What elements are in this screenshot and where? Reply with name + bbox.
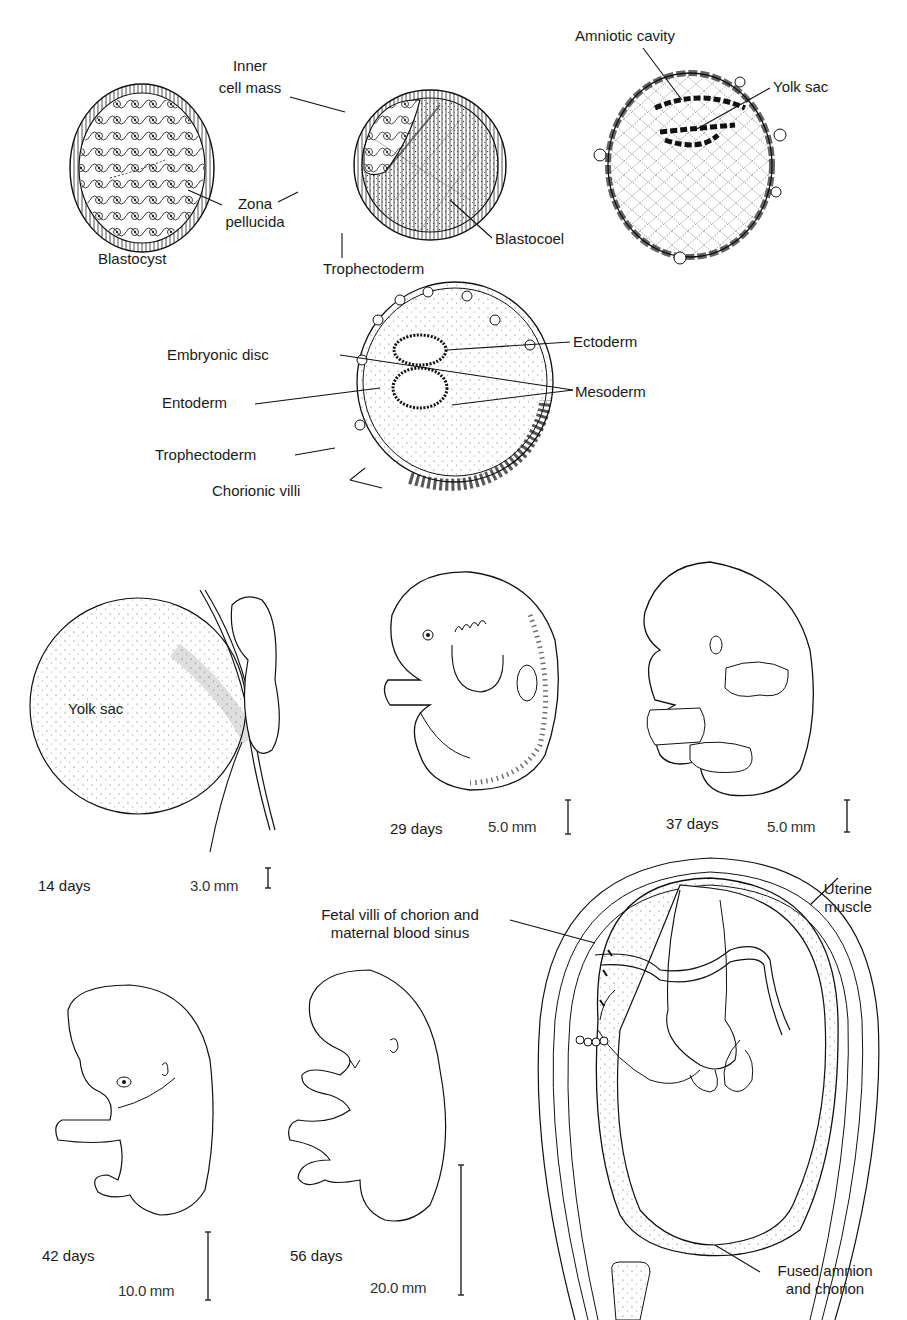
- ectoderm-label: Ectoderm: [573, 333, 637, 351]
- day29-scale: 5.0 mm: [488, 818, 536, 836]
- fused-amnion-chorion-label: Fused amnion and chorion: [760, 1262, 890, 1298]
- uterine-muscle-line2: muscle: [808, 898, 888, 916]
- day14-embryo-drawing: [30, 590, 279, 852]
- day37-scale: 5.0 mm: [767, 818, 815, 836]
- yolk-sac-label-top: Yolk sac: [773, 78, 828, 96]
- mesoderm-label: Mesoderm: [575, 383, 646, 401]
- fused-line2: and chorion: [760, 1280, 890, 1298]
- zona-pellucida-line2: pellucida: [225, 213, 285, 231]
- inner-cell-mass-line2: cell mass: [205, 79, 295, 97]
- day14-scale: 3.0 mm: [190, 877, 238, 895]
- fetal-villi-line1: Fetal villi of chorion and: [290, 906, 510, 924]
- germ-layers-drawing: [355, 282, 553, 485]
- blastocyst-caption: Blastocyst: [98, 250, 166, 268]
- day42-age: 42 days: [42, 1247, 95, 1265]
- day42-scale: 10.0 mm: [118, 1282, 174, 1300]
- zona-pellucida-line1: Zona: [225, 195, 285, 213]
- blastocyst-drawing: [70, 84, 214, 252]
- day37-age: 37 days: [666, 815, 719, 833]
- embryology-illustration: [0, 0, 907, 1320]
- day14-age: 14 days: [38, 877, 91, 895]
- blastocoel-drawing: [354, 90, 506, 240]
- day37-embryo-drawing: [644, 562, 813, 796]
- fetal-villi-label: Fetal villi of chorion and maternal bloo…: [290, 906, 510, 942]
- entoderm-label: Entoderm: [162, 394, 227, 412]
- fetus-in-uterus-drawing: [538, 858, 879, 1320]
- uterine-muscle-line1: Uterine: [808, 880, 888, 898]
- bilaminar-disc-drawing: [594, 73, 786, 264]
- blastocoel-label: Blastocoel: [495, 230, 564, 248]
- uterine-muscle-label: Uterine muscle: [808, 880, 888, 916]
- fused-line1: Fused amnion: [760, 1262, 890, 1280]
- fetal-villi-line2: maternal blood sinus: [290, 924, 510, 942]
- day56-age: 56 days: [290, 1247, 343, 1265]
- trophectoderm-label-top: Trophectoderm: [323, 260, 424, 278]
- inner-cell-mass-label: Inner cell mass: [205, 57, 295, 97]
- day29-age: 29 days: [390, 820, 443, 838]
- day29-embryo-drawing: [384, 572, 558, 790]
- day56-embryo-drawing: [289, 970, 446, 1221]
- day56-scale: 20.0 mm: [370, 1279, 426, 1297]
- day42-embryo-drawing: [56, 985, 213, 1215]
- zona-pellucida-label: Zona pellucida: [225, 195, 285, 231]
- yolk-sac-label-day14: Yolk sac: [68, 700, 123, 718]
- embryonic-disc-label: Embryonic disc: [167, 346, 269, 364]
- inner-cell-mass-line1: Inner: [205, 57, 295, 75]
- trophectoderm-label-mid: Trophectoderm: [155, 446, 256, 464]
- chorionic-villi-label: Chorionic villi: [212, 482, 300, 500]
- amniotic-cavity-label: Amniotic cavity: [575, 27, 675, 45]
